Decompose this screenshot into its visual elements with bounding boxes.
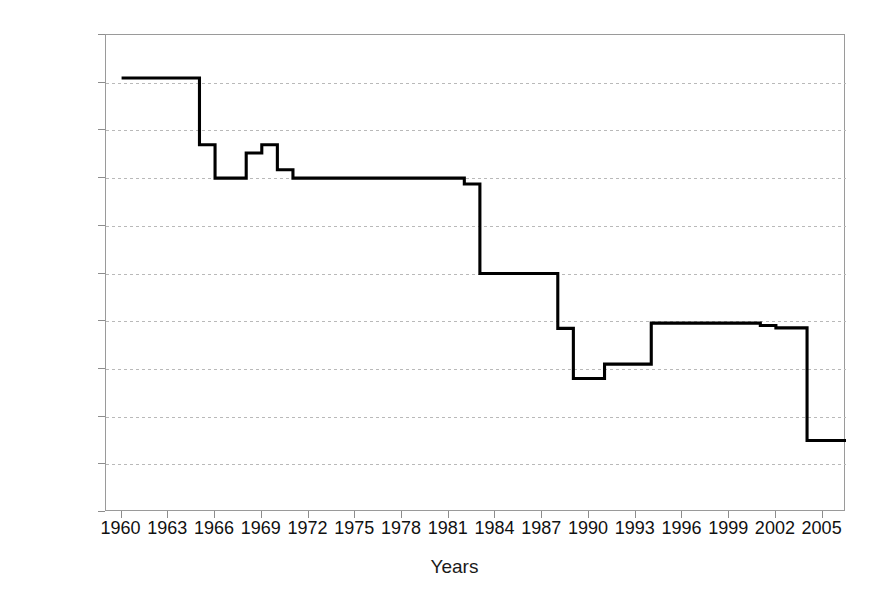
- x-tick-label: 1993: [615, 518, 655, 539]
- x-tick-label: 2002: [755, 518, 795, 539]
- x-tick-mark: [121, 511, 122, 518]
- x-tick-label: 1999: [708, 518, 748, 539]
- x-tick-mark: [588, 511, 589, 518]
- chart-svg: [106, 35, 846, 512]
- data-line-series-0: [122, 78, 846, 441]
- chart-figure: Top Marginal Tax Rate on Dividends 0%10%…: [0, 0, 873, 603]
- y-tick-mark: [98, 511, 105, 512]
- x-tick-label: 1978: [381, 518, 421, 539]
- x-tick-label: 1981: [428, 518, 468, 539]
- x-tick-mark: [167, 511, 168, 518]
- gridlines: [106, 84, 846, 465]
- x-tick-mark: [541, 511, 542, 518]
- x-tick-label: 1963: [147, 518, 187, 539]
- y-tick-mark: [98, 34, 105, 35]
- x-tick-mark: [728, 511, 729, 518]
- x-tick-mark: [448, 511, 449, 518]
- y-tick-mark: [98, 320, 105, 321]
- x-tick-mark: [681, 511, 682, 518]
- y-tick-mark: [98, 82, 105, 83]
- x-tick-label: 1984: [474, 518, 514, 539]
- y-tick-mark: [98, 368, 105, 369]
- x-tick-mark: [775, 511, 776, 518]
- y-tick-mark: [98, 416, 105, 417]
- x-tick-mark: [261, 511, 262, 518]
- x-tick-label: 1996: [661, 518, 701, 539]
- x-tick-label: 1966: [194, 518, 234, 539]
- x-tick-label: 1960: [101, 518, 141, 539]
- y-tick-mark: [98, 177, 105, 178]
- x-tick-label: 1972: [287, 518, 327, 539]
- y-tick-mark: [98, 463, 105, 464]
- x-tick-mark: [635, 511, 636, 518]
- x-axis-title-text: Years: [431, 556, 479, 577]
- plot-area: [105, 34, 845, 511]
- x-tick-mark: [308, 511, 309, 518]
- y-tick-mark: [98, 225, 105, 226]
- y-tick-mark: [98, 129, 105, 130]
- x-tick-label: 1969: [241, 518, 281, 539]
- x-tick-label: 1987: [521, 518, 561, 539]
- x-tick-label: 1975: [334, 518, 374, 539]
- y-tick-mark: [98, 273, 105, 274]
- x-tick-mark: [354, 511, 355, 518]
- x-axis-title: Years: [0, 556, 873, 578]
- x-tick-mark: [401, 511, 402, 518]
- x-tick-label: 2005: [802, 518, 842, 539]
- x-tick-mark: [822, 511, 823, 518]
- x-tick-mark: [494, 511, 495, 518]
- x-tick-label: 1990: [568, 518, 608, 539]
- x-tick-mark: [214, 511, 215, 518]
